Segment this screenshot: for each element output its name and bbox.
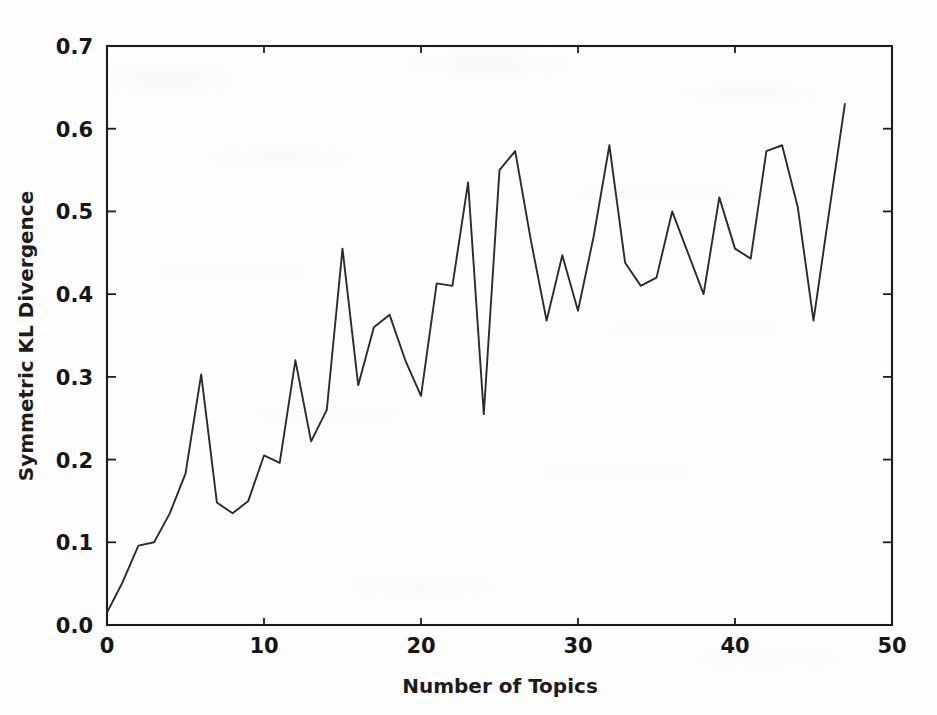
y-tick-labels: 0.00.10.20.30.40.50.60.7 — [56, 35, 93, 638]
figure-container: 01020304050 0.00.10.20.30.40.50.60.7 Num… — [0, 0, 937, 715]
x-tick-label: 50 — [877, 634, 906, 658]
data-series-line — [107, 104, 845, 613]
x-tick-label: 20 — [406, 634, 435, 658]
x-tick-label: 10 — [249, 634, 278, 658]
y-tick-label: 0.0 — [56, 614, 93, 638]
tick-marks-group — [107, 46, 892, 625]
axes-group — [107, 46, 892, 625]
y-tick-label: 0.5 — [56, 200, 93, 224]
x-tick-label: 0 — [100, 634, 115, 658]
y-axis-label: Symmetric KL Divergence — [14, 191, 38, 481]
x-tick-labels: 01020304050 — [100, 634, 907, 658]
line-chart: 01020304050 0.00.10.20.30.40.50.60.7 Num… — [0, 0, 937, 715]
y-tick-label: 0.2 — [56, 449, 93, 473]
x-tick-label: 30 — [563, 634, 592, 658]
y-tick-label: 0.7 — [56, 35, 93, 59]
x-axis-label: Number of Topics — [402, 674, 598, 698]
y-tick-label: 0.6 — [56, 118, 93, 142]
y-tick-label: 0.4 — [56, 283, 93, 307]
y-tick-label: 0.1 — [56, 531, 93, 555]
x-tick-label: 40 — [720, 634, 749, 658]
y-tick-label: 0.3 — [56, 366, 93, 390]
